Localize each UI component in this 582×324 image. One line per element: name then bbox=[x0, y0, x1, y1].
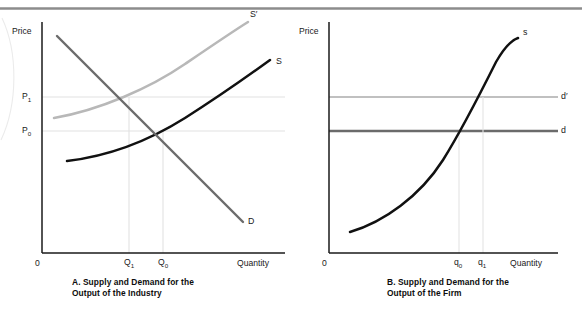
panel-a-curve-label-s: S bbox=[276, 56, 282, 66]
panel-b-quantity-tick-q1: q1 bbox=[478, 257, 486, 269]
panel-b-curve-label-d-prime: d′ bbox=[561, 91, 568, 101]
panel-a-curve-label-d: D bbox=[248, 216, 254, 226]
panel-a-curve-label-s-prime: S′ bbox=[250, 9, 258, 19]
panel-b-curve-label-d: d bbox=[561, 125, 566, 135]
panel-a-price-tick-p1-sub: 1 bbox=[28, 96, 31, 103]
panel-b-x-axis-label: Quantity bbox=[510, 258, 542, 268]
panel-b-y-axis-label: Price bbox=[299, 26, 319, 36]
panel-b-curve-label-s: s bbox=[523, 27, 527, 37]
panel-a-caption: A. Supply and Demand for the Output of t… bbox=[72, 277, 194, 298]
panel-a-quantity-tick-q0-base: Q bbox=[158, 257, 165, 267]
panel-b-caption: B. Supply and Demand for the Output of t… bbox=[387, 277, 509, 298]
panel-a-price-tick-p0: P0 bbox=[22, 125, 31, 137]
panel-a-y-axis-label: Price bbox=[12, 26, 32, 36]
panel-a-price-tick-p0-sub: 0 bbox=[28, 130, 31, 137]
scan-artifact-arc bbox=[1, 18, 14, 140]
panel-b-quantity-tick-q0: q0 bbox=[454, 257, 462, 269]
panel-a-quantity-tick-q1-sub: 1 bbox=[131, 262, 134, 269]
panel-b-origin-label: 0 bbox=[322, 258, 327, 268]
panel-a-quantity-tick-q1: Q1 bbox=[124, 257, 134, 269]
panel-a-quantity-tick-q0-sub: 0 bbox=[165, 262, 168, 269]
panel-a-quantity-tick-q1-base: Q bbox=[124, 257, 131, 267]
panel-b bbox=[329, 22, 558, 253]
panel-a-price-tick-p1: P1 bbox=[22, 91, 31, 103]
panel-a-x-axis-label: Quantity bbox=[237, 258, 269, 268]
panel-b-quantity-tick-q1-sub: 1 bbox=[483, 262, 486, 269]
supply-demand-figure bbox=[0, 0, 582, 324]
panel-a-curve-s-prime bbox=[54, 22, 248, 118]
panel-b-curve-s bbox=[350, 38, 518, 232]
panel-b-quantity-tick-q0-sub: 0 bbox=[459, 262, 462, 269]
panel-a-quantity-tick-q0: Q0 bbox=[158, 257, 168, 269]
panel-a-origin-label: 0 bbox=[35, 258, 40, 268]
panel-a-curve-d bbox=[57, 36, 243, 222]
